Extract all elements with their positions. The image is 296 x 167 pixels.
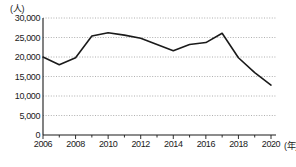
x-axis-tick-label: 2018 xyxy=(229,139,247,149)
x-axis-tick-label: 2008 xyxy=(66,139,84,149)
x-axis-unit-label: (年) xyxy=(284,139,296,152)
x-axis-tick-label: 2020 xyxy=(262,139,280,149)
x-axis-tick-label: 2014 xyxy=(164,139,182,149)
x-axis-tick-label: 2006 xyxy=(34,139,52,149)
gridlines xyxy=(43,18,276,116)
x-axis-tick-label: 2010 xyxy=(99,139,117,149)
chart-figure: (人) 05,00010,00015,00020,00025,00030,000… xyxy=(0,0,296,167)
x-axis-tick-label: 2012 xyxy=(131,139,149,149)
x-axis-tick-label: 2016 xyxy=(197,139,215,149)
data-series-line xyxy=(43,33,271,85)
